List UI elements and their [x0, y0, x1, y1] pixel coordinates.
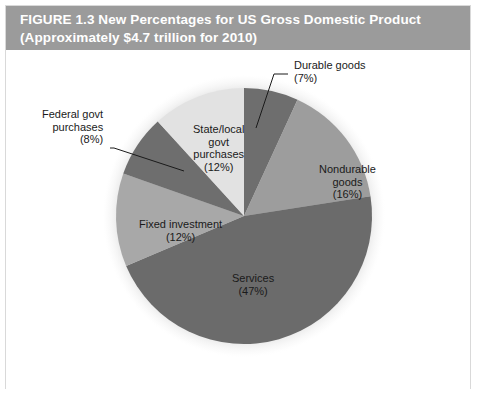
pie-label-services: Services (47%) [232, 272, 274, 297]
pie-label-fixed-investment: Fixed investment (12%) [139, 218, 222, 243]
figure-caption-line-2: (Approximately $4.7 trillion for 2010) [20, 30, 257, 45]
figure-caption-band: FIGURE 1.3 New Percentages for US Gross … [6, 6, 470, 50]
pie-label-federal-govt-purchases: Federal govt purchases (8%) [42, 108, 103, 146]
figure-container: FIGURE 1.3 New Percentages for US Gross … [0, 0, 477, 395]
pie-label-durable-goods: Durable goods (7%) [294, 59, 366, 84]
pie-label-state-local-govt-purchases: State/local govt purchases (12%) [193, 123, 244, 173]
pie-label-nondurable-goods: Nondurable goods (16%) [319, 163, 376, 201]
figure-caption-line-1: FIGURE 1.3 New Percentages for US Gross … [20, 12, 421, 27]
pie-chart-area: Durable goods (7%) Nondurable goods (16%… [6, 50, 470, 389]
pie-chart-svg [6, 50, 470, 389]
